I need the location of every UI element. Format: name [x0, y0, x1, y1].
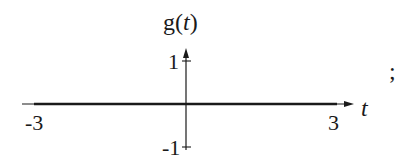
y-axis-title-var: t — [183, 9, 190, 35]
y-tick-label-max: 1 — [168, 51, 179, 73]
x-tick-label-min: -3 — [25, 112, 43, 134]
x-tick-label-max: 3 — [328, 112, 339, 134]
y-axis-arrow-icon — [183, 48, 189, 58]
x-axis-title: t — [361, 96, 368, 120]
y-axis-title-prefix: g( — [163, 9, 183, 35]
y-axis-title: g(t) — [163, 10, 198, 34]
x-axis-arrow-icon — [344, 101, 354, 107]
y-tick-label-min: -1 — [162, 137, 180, 159]
trailing-semicolon: ; — [389, 59, 396, 83]
y-axis-title-suffix: ) — [190, 9, 198, 35]
plot-canvas — [0, 0, 400, 165]
